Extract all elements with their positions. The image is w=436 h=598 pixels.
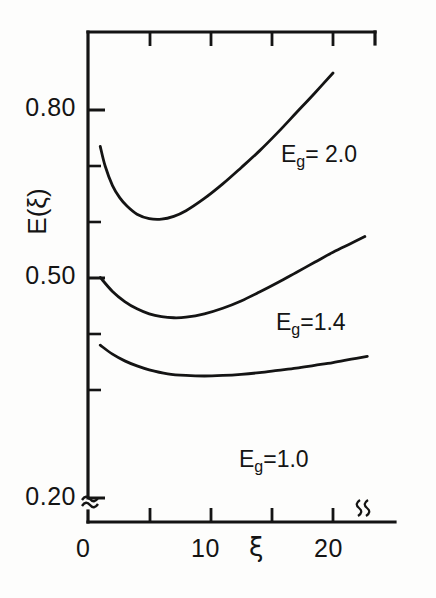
y-tick-label-020: 0.20	[14, 482, 76, 511]
curve-label-eg-1-0: Eg=1.0	[239, 446, 309, 476]
y-tick-label-080: 0.80	[14, 93, 76, 122]
curve-label-value: = 2.0	[305, 141, 357, 167]
y-axis-break-icon	[82, 503, 98, 508]
curve-label-eg-2-0: Eg= 2.0	[281, 141, 357, 171]
x-axis-title: ξ	[249, 532, 264, 562]
curve-label-base: E	[276, 309, 291, 335]
curve-label-base: E	[281, 141, 296, 167]
curve-label-subscript: g	[296, 153, 305, 170]
curve-label-subscript: g	[254, 458, 263, 475]
y-axis-title: E(ξ)	[22, 170, 53, 254]
curve-eg-1-4	[100, 237, 365, 318]
curve-label-base: E	[239, 446, 254, 472]
x-axis-break-icon	[357, 500, 362, 516]
x-axis-break-icon-second	[365, 500, 370, 516]
curve-label-eg-1-4: Eg=1.4	[276, 309, 346, 339]
y-tick-label-050: 0.50	[14, 261, 76, 290]
curve-label-subscript: g	[291, 321, 300, 338]
curve-eg-1-0	[100, 345, 367, 376]
curve-label-value: =1.4	[300, 309, 345, 335]
x-tick-label-10: 10	[191, 534, 220, 563]
x-tick-label-20: 20	[314, 534, 343, 563]
figure-panel: 0.80 0.50 0.20 E(ξ) 0 10 20 ξ Eg= 2.0 Eg…	[0, 0, 436, 598]
curve-label-value: =1.0	[263, 446, 308, 472]
x-tick-label-0: 0	[76, 534, 90, 563]
